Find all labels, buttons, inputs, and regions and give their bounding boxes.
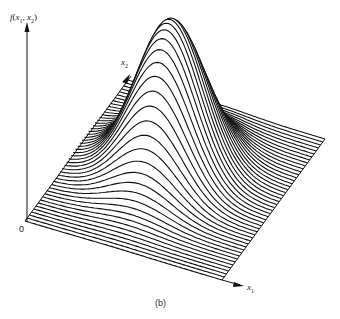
- x2-axis-label: x2: [121, 57, 128, 69]
- surface-plot: [0, 0, 340, 319]
- figure-caption: (b): [155, 298, 166, 308]
- x1-axis-arrow-icon: [233, 282, 244, 287]
- surface-lines: [25, 18, 325, 282]
- origin-label: 0: [19, 224, 24, 234]
- x1-label-sub: 1: [251, 288, 254, 294]
- x2-label-sub: 2: [125, 63, 128, 69]
- z-label-close: ): [34, 12, 37, 22]
- x1-axis-label: x1: [247, 282, 254, 294]
- z-axis-label: f(x1, x2): [10, 12, 37, 24]
